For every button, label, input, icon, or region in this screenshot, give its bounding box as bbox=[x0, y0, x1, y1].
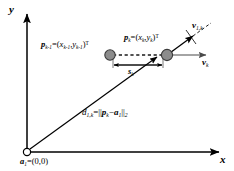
y-axis-label: y bbox=[9, 4, 14, 15]
x-axis-label: x bbox=[220, 154, 226, 165]
pk-transpose: T bbox=[155, 33, 158, 39]
anchor-marker-a1 bbox=[23, 148, 30, 155]
localization-geometry-figure: y x pk-1=(xk-1,yk-1)T pk=(xk,yk)T v1,k v… bbox=[0, 0, 234, 171]
d1k-norm-subscript: 2 bbox=[125, 112, 128, 118]
segment-label-sk: sk bbox=[128, 67, 134, 76]
sk-subscript: k bbox=[131, 71, 133, 77]
point-label-pk: pk=(xk,yk)T bbox=[124, 33, 159, 42]
pk-subscript: k bbox=[128, 37, 130, 43]
d1k-subscript: 1,k bbox=[87, 112, 94, 118]
pk-minus-1-transpose: T bbox=[86, 40, 89, 46]
d1k-term-pk-subscript: k bbox=[106, 112, 108, 118]
point-label-pk-minus-1: pk-1=(xk-1,yk-1)T bbox=[41, 40, 89, 49]
point-marker-pk bbox=[161, 49, 172, 60]
pk-minus-1-y-subscript: k-1 bbox=[76, 44, 83, 50]
vector-label-vk: vk bbox=[202, 58, 208, 67]
d1k-symbol: d bbox=[82, 107, 87, 117]
a1-equals-coords: =(0,0) bbox=[27, 156, 48, 166]
d1k-equals: =|| bbox=[93, 107, 102, 117]
segment-measure-sk bbox=[113, 55, 163, 68]
distance-line-a1-to-pk bbox=[30, 57, 157, 149]
d1k-term-a1-subscript: 1 bbox=[118, 112, 121, 118]
pk-x-subscript: k bbox=[142, 37, 144, 43]
pk-y-subscript: k bbox=[150, 37, 152, 43]
pk-minus-1-equals: =( bbox=[52, 39, 60, 49]
v1k-subscript: 1,k bbox=[196, 25, 203, 31]
point-marker-pk-minus-1 bbox=[105, 50, 115, 60]
vk-subscript: k bbox=[206, 62, 208, 68]
anchor-label-a1: a1=(0,0) bbox=[20, 157, 48, 166]
a1-subscript: 1 bbox=[24, 161, 27, 167]
vector-label-v1k: v1,k bbox=[192, 21, 203, 30]
pk-minus-1-x-subscript: k-1 bbox=[63, 44, 70, 50]
pk-minus-1-subscript: k-1 bbox=[45, 44, 52, 50]
distance-label-d1k: d1,k=||pk−a1||2 bbox=[82, 108, 128, 117]
